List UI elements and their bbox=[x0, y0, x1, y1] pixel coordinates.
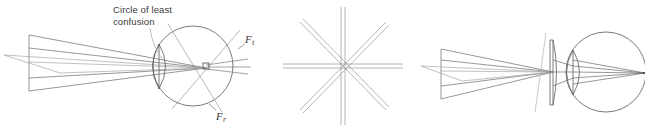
eyeball-circle-left bbox=[153, 26, 233, 106]
label-radial-focus: Fr bbox=[216, 110, 226, 124]
leader-line-ft bbox=[238, 44, 245, 49]
figure-canvas bbox=[0, 0, 645, 139]
astigmatism-figure: Circle of least confusion Ft Fr bbox=[0, 0, 645, 139]
label-tangential-focus-letter: F bbox=[245, 33, 252, 45]
incoming-ray-bundle-left-secondary bbox=[4, 55, 206, 73]
panel-left-uncorrected-eye bbox=[4, 24, 251, 112]
label-tangential-focus-subscript: t bbox=[252, 38, 255, 47]
panel-right-corrected-eye bbox=[421, 32, 645, 112]
cylinder-lens-axis-line bbox=[535, 33, 546, 112]
label-circle-of-least-confusion: Circle of least confusion bbox=[113, 4, 203, 27]
panel-middle-astigmatic-fan bbox=[283, 7, 403, 125]
label-radial-focus-letter: F bbox=[216, 110, 223, 122]
label-tangential-focus: Ft bbox=[245, 33, 254, 47]
radial-focal-line bbox=[168, 24, 222, 112]
leader-line-circle-least-confusion bbox=[150, 28, 163, 60]
leader-line-fr bbox=[209, 104, 216, 110]
label-radial-focus-subscript: r bbox=[223, 115, 226, 124]
converging-rays-to-retina bbox=[573, 60, 645, 84]
eye-lens-right bbox=[567, 50, 580, 95]
